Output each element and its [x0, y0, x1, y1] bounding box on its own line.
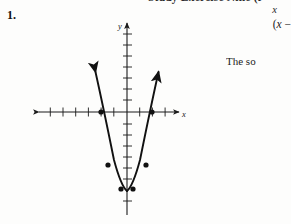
x-axis-label: x: [181, 109, 186, 119]
equation-line-2: (x −: [273, 18, 291, 30]
y-axis-label: y: [117, 21, 122, 31]
right-equation-column: x (x −: [210, 4, 291, 84]
parabola-right-branch: [127, 72, 159, 191]
parabola-left-branch: [96, 72, 128, 191]
equation-line-1: x: [272, 4, 277, 15]
figure-page: Study Exercise Nine (f 1. x (x − The so: [0, 0, 291, 224]
axes-group: [39, 23, 179, 215]
parabola-figure: y x: [24, 14, 196, 224]
point-x-intercept-right: [149, 109, 154, 114]
problem-number: 1.: [7, 8, 16, 23]
solution-text: The so: [226, 55, 291, 67]
point-vertex-left: [118, 186, 123, 191]
point-right-lower: [143, 162, 148, 167]
equation-minus: −: [282, 18, 291, 30]
point-x-intercept-left: [98, 109, 103, 114]
point-left-lower: [105, 162, 110, 167]
point-vertex-right: [130, 186, 135, 191]
